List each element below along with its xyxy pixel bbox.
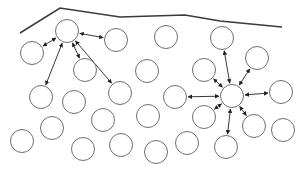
bidirectional-arrow	[245, 93, 268, 95]
particle-node	[72, 138, 95, 161]
particle-node	[193, 59, 216, 82]
bidirectional-arrow	[46, 43, 62, 85]
particle-node	[105, 29, 128, 52]
bidirectional-arrow	[224, 51, 230, 83]
particle-node	[211, 27, 234, 50]
particle-node	[243, 115, 266, 138]
particle-interaction-diagram	[0, 0, 308, 170]
particle-node	[215, 136, 238, 159]
bidirectional-arrow	[240, 106, 247, 115]
particle-node	[176, 132, 199, 155]
bidirectional-arrow	[214, 104, 221, 109]
particle-node	[193, 106, 216, 129]
bidirectional-arrow	[43, 38, 56, 46]
particle-node	[136, 60, 159, 83]
particle-node	[74, 59, 97, 82]
particle-node	[63, 91, 86, 114]
particle-node	[11, 130, 34, 153]
bidirectional-arrow	[80, 33, 103, 37]
particle-node	[109, 82, 132, 105]
particle-nodes	[11, 20, 295, 164]
particle-node	[137, 105, 160, 128]
particle-node	[145, 141, 168, 164]
bidirectional-arrow	[239, 69, 250, 85]
hub-particle-node	[56, 20, 79, 43]
particle-node	[246, 47, 269, 70]
particle-node	[272, 119, 295, 142]
particle-node	[92, 109, 115, 132]
particle-node	[30, 86, 53, 109]
particle-node	[21, 42, 44, 65]
particle-node	[164, 86, 187, 109]
particle-node	[110, 134, 133, 157]
bidirectional-arrow	[228, 109, 231, 134]
particle-node	[155, 26, 178, 49]
bidirectional-arrow	[214, 79, 223, 87]
particle-node	[41, 117, 64, 140]
particle-node	[270, 81, 293, 104]
hub-particle-node	[221, 85, 244, 108]
bidirectional-arrow	[188, 96, 219, 97]
